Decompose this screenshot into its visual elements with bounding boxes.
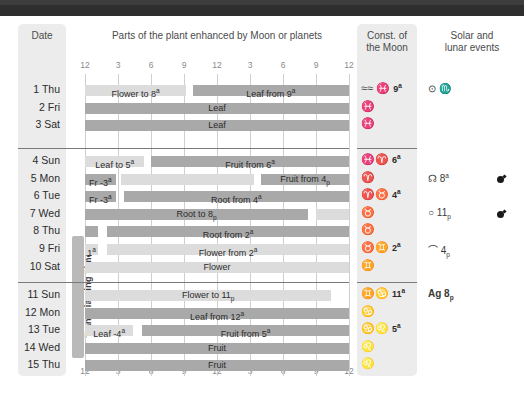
plant-part-label: Root from 2a xyxy=(107,226,349,237)
plant-parts-chart: 123691236912123691236912Flower to 8aLeaf… xyxy=(85,58,349,376)
transplanting-time-bar: Transplanting Time xyxy=(72,236,84,358)
date-cell: 11 Sun xyxy=(14,288,60,300)
plant-part-label: Leaf xyxy=(85,120,349,131)
top-banner xyxy=(0,0,524,16)
event-cell: ⊙ ♏ xyxy=(428,83,520,97)
plant-part-label: Leaf xyxy=(85,103,349,114)
axis-tick: 6 xyxy=(144,60,158,70)
constellation-cell: ♈♉ 4a xyxy=(361,188,421,202)
plant-part-label: 1a xyxy=(85,244,98,255)
constellation-cell: ♉ xyxy=(361,223,421,237)
constellation-cell: ♈ xyxy=(361,171,421,185)
constellation-symbol: ♈♉ xyxy=(361,188,389,201)
plant-part-label: Flower from 2a xyxy=(107,244,349,255)
date-cell: 14 Wed xyxy=(14,341,60,353)
plant-part-label: Fr -3a xyxy=(85,174,116,185)
plant-part-bar xyxy=(121,174,254,185)
date-cell: 5 Mon xyxy=(14,172,60,184)
constellation-cell: ♊♋ 11a xyxy=(361,287,421,301)
block-separator xyxy=(357,282,417,283)
plant-part-bar xyxy=(316,209,349,220)
constellation-cell: ♓ xyxy=(361,117,421,131)
constellation-symbol: ♉♊ xyxy=(361,241,389,254)
axis-tick: 3 xyxy=(243,60,257,70)
constellation-symbol: ♓ xyxy=(361,100,375,113)
header-date: Date xyxy=(18,30,66,42)
constellation-symbol: ♉ xyxy=(361,206,375,219)
constellation-cell: ♊ xyxy=(361,259,421,273)
constellation-hour: 2a xyxy=(392,243,401,253)
plant-part-label: Fruit from 6a xyxy=(151,156,349,167)
axis-tick: 9 xyxy=(177,60,191,70)
plant-part-label: Flower to 11p xyxy=(85,290,331,301)
date-cell: 7 Wed xyxy=(14,207,60,219)
plant-part-label: Flower to 8a xyxy=(85,85,186,96)
constellation-hour: 4a xyxy=(392,190,401,200)
constellation-cell: ≈≈ ♓ 9a xyxy=(361,82,421,96)
constellation-symbol: ♈ xyxy=(361,171,375,184)
constellation-cell: ♉ xyxy=(361,206,421,220)
constellation-symbol: ♊♋ xyxy=(361,287,389,300)
constellation-symbol: ♓♈ xyxy=(361,153,389,166)
constellation-symbol: ♋♌ xyxy=(361,322,389,335)
axis-tick: 12 xyxy=(78,60,92,70)
constellation-hour: 5a xyxy=(392,324,401,334)
header-events-line1: Solar and xyxy=(424,30,520,42)
event-symbol: ⊙ ♏ xyxy=(428,83,451,94)
constellation-cell: ♋ xyxy=(361,305,421,319)
date-cell: 9 Fri xyxy=(14,242,60,254)
plant-part-label: Root to 8p xyxy=(85,209,308,220)
plant-part-label: Fr -3a xyxy=(85,191,116,202)
header-events-line2: lunar events xyxy=(424,42,520,54)
axis-tick: 9 xyxy=(309,60,323,70)
event-cell: Ag 8p xyxy=(428,288,520,302)
event-cell: ⌒ 4p xyxy=(428,242,520,256)
date-cell: 10 Sat xyxy=(14,260,60,272)
constellation-symbol: ♌ xyxy=(361,357,375,370)
event-cell: ☊ 8a xyxy=(428,172,520,186)
date-cell: 12 Mon xyxy=(14,306,60,318)
plant-part-label: Leaf to 5a xyxy=(85,156,144,167)
event-symbol: Ag 8p xyxy=(428,288,454,299)
plant-part-label: Fruit from 5a xyxy=(142,325,349,336)
axis-tick: 12 xyxy=(210,60,224,70)
calendar-page: Date Parts of the plant enhanced by Moon… xyxy=(0,0,524,410)
date-cell: 6 Tue xyxy=(14,189,60,201)
constellation-symbol: ♋ xyxy=(361,305,375,318)
date-cell: 4 Sun xyxy=(14,154,60,166)
constellation-hour: 6a xyxy=(392,155,401,165)
block-separator xyxy=(357,148,417,149)
axis-tick: 3 xyxy=(111,60,125,70)
event-cell: ○ 11p xyxy=(428,207,520,221)
gridline xyxy=(349,74,350,376)
block-separator xyxy=(18,282,349,283)
plant-part-label: Leaf from 9a xyxy=(193,85,349,96)
moon-perigee-icon xyxy=(497,176,504,183)
plant-part-label: Leaf -4a xyxy=(85,325,133,336)
constellation-symbol: ♊ xyxy=(361,259,375,272)
plant-part-label: Root from 4a xyxy=(124,191,350,202)
plant-part-label: Flower xyxy=(85,262,349,273)
axis-tick: 12 xyxy=(342,60,356,70)
moon-perigee-icon xyxy=(497,211,504,218)
date-cell: 1 Thu xyxy=(14,83,60,95)
constellation-symbol: ≈≈ ♓ xyxy=(361,82,390,95)
constellation-cell: ♉♊ 2a xyxy=(361,241,421,255)
constellation-cell: ♓♈ 6a xyxy=(361,153,421,167)
plant-part-bar xyxy=(85,226,98,237)
header-constellation-line2: the Moon xyxy=(357,42,417,54)
plant-part-label: Fruit from 4p xyxy=(261,174,349,185)
date-cell: 2 Fri xyxy=(14,101,60,113)
constellation-hour: 11a xyxy=(392,289,405,299)
date-cell: 13 Tue xyxy=(14,323,60,335)
constellation-symbol: ♌ xyxy=(361,340,375,353)
constellation-symbol: ♉ xyxy=(361,223,375,236)
top-banner-highlight xyxy=(0,0,524,5)
constellation-cell: ♌ xyxy=(361,357,421,371)
constellation-symbol: ♓ xyxy=(361,117,375,130)
plant-part-label: Fruit xyxy=(85,360,349,371)
plant-part-label: Leaf from 12a xyxy=(85,308,349,319)
event-symbol: ○ 11p xyxy=(428,207,451,218)
date-cell: 15 Thu xyxy=(14,358,60,370)
axis-tick: 6 xyxy=(276,60,290,70)
